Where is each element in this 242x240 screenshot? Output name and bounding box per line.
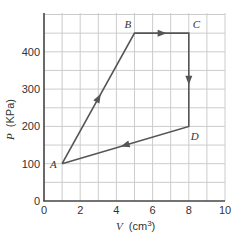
y-tick-label: 200 — [22, 120, 40, 132]
point-label-b: B — [125, 18, 132, 30]
y-tick-label: 0 — [34, 195, 40, 207]
x-tick-label: 6 — [150, 204, 156, 216]
x-tick-label: 2 — [77, 204, 83, 216]
x-tick-label: 0 — [41, 204, 47, 216]
y-tick-label: 100 — [22, 158, 40, 170]
y-tick-label: 300 — [22, 83, 40, 95]
y-tick-label: 400 — [22, 46, 40, 58]
x-tick-label: 10 — [219, 204, 231, 216]
point-label-a: A — [49, 158, 57, 170]
pv-diagram-chart: 02468100100200300400 ABCD V (cm3) P (KPa… — [0, 0, 242, 240]
y-axis-label: P (KPa) — [4, 99, 16, 141]
point-label-d: D — [190, 130, 199, 142]
direction-arrows — [93, 30, 192, 150]
arrow-icon — [158, 30, 167, 37]
tick-labels: 02468100100200300400 — [22, 46, 231, 216]
x-tick-label: 4 — [113, 204, 119, 216]
grid — [44, 13, 225, 201]
x-tick-label: 8 — [186, 204, 192, 216]
point-label-c: C — [193, 18, 201, 30]
arrow-icon — [185, 76, 192, 85]
x-axis-label: V (cm3) — [116, 219, 155, 232]
